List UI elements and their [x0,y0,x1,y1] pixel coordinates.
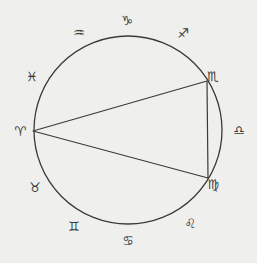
inscribed-triangle [33,81,208,178]
zodiac-diagram: ♑︎♐︎♏︎♎︎♍︎♌︎♋︎♊︎♉︎♈︎♓︎♒︎ [0,0,257,263]
cancer-sign-icon: ♋︎ [122,234,134,247]
taurus-sign-icon: ♉︎ [29,181,41,194]
capricorn-sign-icon: ♑︎ [121,14,133,27]
libra-sign-icon: ♎︎ [233,124,245,137]
zodiac-circle [34,36,222,224]
gemini-sign-icon: ♊︎ [68,220,80,233]
scorpio-sign-icon: ♏︎ [207,70,219,83]
virgo-sign-icon: ♍︎ [207,178,219,191]
leo-sign-icon: ♌︎ [184,217,196,230]
pisces-sign-icon: ♓︎ [26,70,38,83]
sagittarius-sign-icon: ♐︎ [177,27,189,40]
aquarius-sign-icon: ♒︎ [73,26,85,39]
diagram-canvas [0,0,257,263]
aries-sign-icon: ♈︎ [14,125,26,138]
